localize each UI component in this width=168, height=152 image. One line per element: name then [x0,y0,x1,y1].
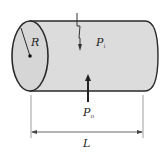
length-dimension-line [31,130,143,134]
length-label: L [82,137,90,150]
outer-pressure-label: Po [82,106,94,119]
center-dot [28,54,32,58]
cylinder-body [30,21,158,91]
radius-label: R [30,36,39,49]
cylinder-diagram: R Pi Po L [0,0,168,152]
